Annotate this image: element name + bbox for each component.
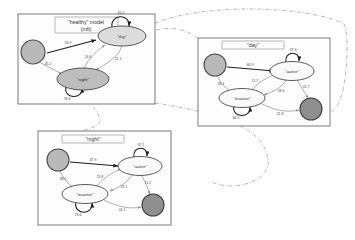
- edge-label-night-inactive-end: 24.1: [119, 208, 126, 212]
- edge-label-day-inactive-self: 66.5: [233, 116, 240, 120]
- node-label-day-active: "active": [285, 69, 299, 74]
- node-day-start: [204, 54, 226, 76]
- edge-label-healthy-night-self: 78.6: [64, 97, 71, 101]
- edge-label-day-inactive-end: 21.8: [277, 112, 284, 116]
- node-label-night-active: "active": [133, 164, 147, 169]
- edge-label-day-start-active: 66.9: [247, 63, 254, 67]
- edge-label-day-active-end: 41.7: [303, 85, 310, 89]
- edge-label-night-active-inactive: 21.1: [121, 185, 128, 189]
- node-night-end: [142, 194, 164, 216]
- node-healthy-start: [21, 40, 45, 64]
- panel-healthy-subtitle: (mft): [81, 26, 92, 32]
- panel-night-sub-title: "night": [86, 136, 101, 142]
- panel-healthy-title: "healthy" model: [68, 19, 104, 25]
- panel-night-sub: "night" 47.9 48.1 67.1 21.1 11.8 73.6 11…: [38, 131, 171, 225]
- node-day-end: [300, 98, 322, 120]
- panel-day-sub-title: "day": [247, 42, 259, 48]
- panel-day-sub: "day" 66.9 33.1 67.3 18.6 11.7 66.5 41.7…: [198, 38, 330, 126]
- edge-label-healthy-night-day: 14.6: [85, 55, 92, 59]
- edge-label-day-start-inactive: 33.1: [218, 82, 225, 86]
- edge-label-night-inactive-self: 73.6: [75, 213, 82, 217]
- edge-label-night-active-end: 11.2: [145, 181, 151, 185]
- panel-healthy: "healthy" model (mft) 54.9 45.1 65.2 21.…: [18, 11, 155, 104]
- node-label-healthy-day: "day": [117, 34, 127, 39]
- edge-label-healthy-start-day: 54.9: [65, 41, 72, 45]
- diagram-canvas: "healthy" model (mft) 54.9 45.1 65.2 21.…: [0, 0, 355, 240]
- edge-label-night-inactive-active: 11.8: [97, 175, 103, 179]
- state-machine-figure: "healthy" model (mft) 54.9 45.1 65.2 21.…: [0, 0, 355, 240]
- node-label-healthy-night: "night": [77, 77, 90, 82]
- edge-label-night-active-self: 67.1: [138, 143, 145, 147]
- edge-label-day-active-self: 67.3: [290, 48, 297, 52]
- node-label-night-inactive: "inactive": [76, 192, 94, 197]
- edge-label-night-start-inactive: 48.1: [60, 177, 67, 181]
- edge-label-healthy-start-night: 45.1: [45, 62, 52, 66]
- node-label-day-inactive: "inactive": [233, 96, 251, 101]
- edge-label-healthy-day-self: 65.2: [118, 11, 125, 15]
- edge-label-day-active-inactive: 18.6: [278, 89, 285, 93]
- edge-label-day-inactive-active: 11.7: [252, 79, 258, 83]
- edge-label-night-start-active: 47.9: [90, 158, 97, 162]
- node-night-start: [47, 149, 69, 171]
- edge-label-healthy-day-night: 21.1: [115, 57, 122, 61]
